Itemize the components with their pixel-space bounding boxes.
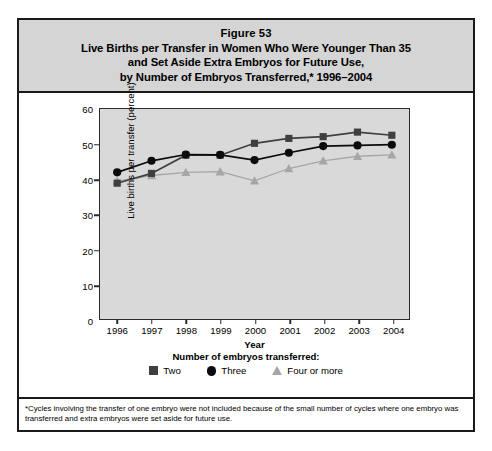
circle-marker-icon [207,366,217,376]
x-axis-tick-label: 1999 [210,325,231,336]
data-point-marker [148,170,155,177]
x-axis-tick-label: 2003 [348,325,369,336]
x-axis-tick-label: 2004 [383,325,404,336]
figure-title-line-3: by Number of Embryos Transferred,* 1996–… [27,70,465,85]
figure-footnote: *Cycles involving the transfer of one em… [19,397,473,430]
y-axis-tick-label: 20 [82,245,93,256]
data-point-marker [320,133,327,140]
y-axis-tick-mark [94,179,100,181]
square-marker-icon [149,366,158,375]
x-axis-tick-mark [393,319,395,324]
x-axis-tick-mark [117,319,119,324]
legend-label-two: Two [163,365,181,376]
x-axis-tick-label: 2001 [279,325,300,336]
data-point-marker [388,141,396,149]
data-point-marker [216,151,224,159]
x-axis-tick-mark [151,319,153,324]
data-point-marker [147,157,155,165]
figure-title-band: Figure 53 Live Births per Transfer in Wo… [19,20,473,93]
x-axis-title: Year [100,339,409,350]
y-axis-tick-label: 60 [82,104,93,115]
figure-number: Figure 53 [27,26,465,41]
data-point-marker [113,169,121,177]
data-point-marker [354,129,361,136]
legend-label-four-or-more: Four or more [287,365,342,376]
y-axis-title: Live births per transfer (percent) [125,51,136,251]
footnote-text: *Cycles involving the transfer of one em… [25,404,467,425]
x-axis-tick-label: 1998 [176,325,197,336]
data-point-marker [285,149,293,157]
data-point-marker [353,142,361,150]
legend-item-four-or-more[interactable]: Four or more [272,365,342,376]
figure-title-line-2: and Set Aside Extra Embryos for Future U… [27,55,465,70]
legend-items: Two Three Four or more [19,365,473,376]
y-axis-tick-label: 50 [82,139,93,150]
x-axis-tick-label: 1996 [107,325,128,336]
data-point-marker [285,135,292,142]
x-axis-tick-label: 2000 [245,325,266,336]
plot-area: Live births per transfer (percent) Year … [99,108,410,320]
data-point-marker [182,151,190,159]
x-axis-tick-mark [220,319,222,324]
x-axis-tick-label: 2002 [314,325,335,336]
y-axis-tick-mark [94,144,100,146]
chart-legend: Number of embryos transferred: Two Three… [19,351,473,376]
x-axis-tick-mark [255,319,257,324]
data-point-marker [251,140,258,147]
figure-title-line-1: Live Births per Transfer in Women Who We… [27,41,465,56]
x-axis-tick-mark [289,319,291,324]
legend-title: Number of embryos transferred: [19,351,473,362]
data-point-marker [319,142,327,150]
data-point-marker [388,132,395,139]
y-axis-tick-mark [94,215,100,217]
data-point-marker [114,180,121,187]
legend-item-three[interactable]: Three [207,365,247,376]
x-axis-tick-mark [186,319,188,324]
chart-body: Live births per transfer (percent) Year … [19,93,473,389]
x-axis-tick-label: 1997 [141,325,162,336]
x-axis-tick-mark [358,319,360,324]
y-axis-tick-label: 10 [82,281,93,292]
triangle-marker-icon [272,366,282,375]
y-axis-tick-label: 30 [82,210,93,221]
y-axis-tick-mark [94,250,100,252]
y-axis-tick-mark [94,285,100,287]
chart-series-layer [100,109,409,319]
y-axis-tick-label: 0 [88,316,93,327]
y-axis-tick-label: 40 [82,175,93,186]
figure-container: Figure 53 Live Births per Transfer in Wo… [17,18,475,432]
data-point-marker [250,156,258,164]
legend-item-two[interactable]: Two [149,365,181,376]
x-axis-tick-mark [324,319,326,324]
legend-label-three: Three [221,365,246,376]
